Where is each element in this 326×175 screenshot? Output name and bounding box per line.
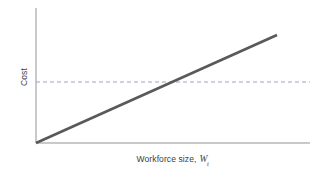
x-axis-title-text: Workforce size, xyxy=(137,154,197,164)
plot-area xyxy=(0,0,326,175)
cost-vs-workforce-size-chart: Cost Workforce size,Wt xyxy=(0,0,326,175)
cost-line-series xyxy=(36,35,277,143)
x-axis-title: Workforce size,Wt xyxy=(137,155,210,166)
y-axis-title: Cost xyxy=(20,68,29,86)
x-axis-variable-subscript: t xyxy=(207,161,209,168)
